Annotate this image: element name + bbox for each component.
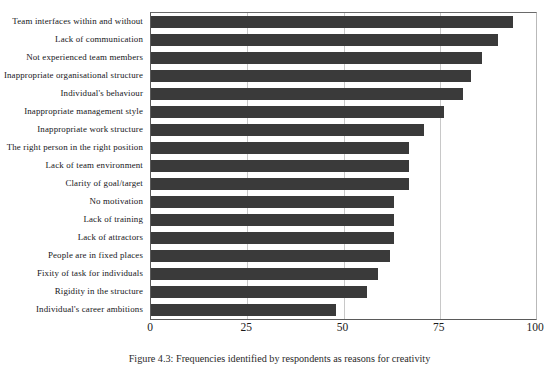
category-tick-label: Lack of attractors bbox=[78, 228, 143, 246]
category-tick-label: No motivation bbox=[90, 192, 143, 210]
value-axis: 0255075100 bbox=[150, 320, 536, 340]
bar bbox=[151, 286, 367, 298]
category-tick-label: Lack of communication bbox=[55, 30, 143, 48]
category-tick-label: The right person in the right position bbox=[7, 138, 143, 156]
value-tick-label: 25 bbox=[241, 320, 253, 334]
value-tick-label: 50 bbox=[337, 320, 349, 334]
category-tick-label: Team interfaces within and without bbox=[12, 12, 143, 30]
bar bbox=[151, 34, 498, 46]
plot-area bbox=[150, 12, 537, 320]
bar bbox=[151, 160, 409, 172]
bars-layer bbox=[151, 13, 536, 319]
category-tick-label: Individual's behaviour bbox=[60, 84, 143, 102]
bar bbox=[151, 16, 513, 28]
bar bbox=[151, 70, 471, 82]
category-tick-label: People are in fixed places bbox=[48, 246, 143, 264]
bar bbox=[151, 250, 390, 262]
bar bbox=[151, 214, 394, 226]
bar bbox=[151, 196, 394, 208]
category-axis: Team interfaces within and withoutLack o… bbox=[0, 12, 147, 318]
category-tick-label: Not experienced team members bbox=[26, 48, 143, 66]
bar bbox=[151, 268, 378, 280]
figure-caption: Figure 4.3: Frequencies identified by re… bbox=[0, 352, 559, 365]
category-tick-label: Clarity of goal/target bbox=[65, 174, 143, 192]
category-tick-label: Inappropriate management style bbox=[24, 102, 143, 120]
value-tick-label: 75 bbox=[433, 320, 445, 334]
category-tick-label: Inappropriate work structure bbox=[37, 120, 143, 138]
category-tick-label: Lack of team environment bbox=[46, 156, 144, 174]
category-tick-label: Rigidity in the structure bbox=[55, 282, 143, 300]
category-tick-label: Lack of training bbox=[83, 210, 143, 228]
bar bbox=[151, 304, 336, 316]
value-tick-label: 0 bbox=[147, 320, 153, 334]
category-tick-label: Fixity of task for individuals bbox=[37, 264, 143, 282]
bar bbox=[151, 88, 463, 100]
bar bbox=[151, 232, 394, 244]
bar bbox=[151, 106, 444, 118]
value-tick-label: 100 bbox=[526, 320, 543, 334]
bar bbox=[151, 178, 409, 190]
category-tick-label: Individual's career ambitions bbox=[36, 300, 143, 318]
category-tick-label: Inappropriate organisational structure bbox=[4, 66, 143, 84]
bar bbox=[151, 52, 482, 64]
bar bbox=[151, 142, 409, 154]
bar bbox=[151, 124, 424, 136]
